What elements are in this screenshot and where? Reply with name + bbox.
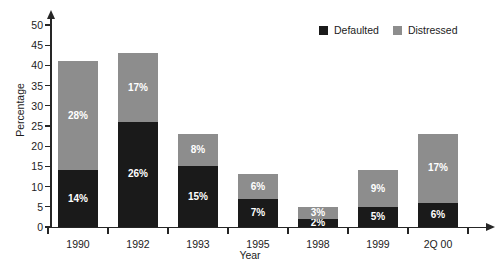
y-axis-line <box>50 18 52 227</box>
x-axis-tick <box>227 228 228 234</box>
bar-segment-distressed[interactable]: 17% <box>418 134 458 203</box>
x-axis-tick <box>407 228 408 234</box>
bar-segment-value-label: 3% <box>311 208 325 218</box>
y-axis-tick-label: 45 <box>3 40 43 50</box>
y-axis-tick <box>45 24 50 25</box>
x-axis-tick <box>287 228 288 234</box>
x-axis-tick <box>107 228 108 234</box>
y-axis-tick <box>45 105 50 106</box>
y-axis-tick-label: 50 <box>3 20 43 30</box>
y-axis-tick-label: 25 <box>3 121 43 131</box>
bar-segment-value-label: 7% <box>251 208 265 218</box>
x-axis-tick <box>167 228 168 234</box>
bar-segment-distressed[interactable]: 9% <box>358 170 398 206</box>
y-axis-tick <box>45 85 50 86</box>
bar-group[interactable]: 14%28% <box>58 61 98 227</box>
y-axis-tick-label: 30 <box>3 101 43 111</box>
y-axis-tick-label: 0 <box>3 222 43 232</box>
bar-segment-value-label: 28% <box>68 111 88 121</box>
bar-segment-value-label: 5% <box>371 212 385 222</box>
legend-item-distressed: Distressed <box>393 24 458 36</box>
bar-group[interactable]: 7%6% <box>238 174 278 227</box>
bar-segment-value-label: 9% <box>371 184 385 194</box>
legend-item-defaulted: Defaulted <box>319 24 379 36</box>
bar-group[interactable]: 5%9% <box>358 170 398 227</box>
legend-label-defaulted: Defaulted <box>334 24 379 36</box>
y-axis-tick-label: 35 <box>3 81 43 91</box>
bar-segment-value-label: 26% <box>128 169 148 179</box>
y-axis-tick-label: 5 <box>3 202 43 212</box>
y-axis-tick-label: 15 <box>3 161 43 171</box>
x-axis-arrow-icon <box>486 223 495 231</box>
chart-legend: Defaulted Distressed <box>319 24 458 36</box>
chart-page: Percentage 05101520253035404550 Year 199… <box>0 0 504 270</box>
y-axis-tick <box>45 186 50 187</box>
y-axis-tick <box>45 146 50 147</box>
y-axis-tick <box>45 125 50 126</box>
x-axis-title: Year <box>210 249 290 261</box>
bar-segment-defaulted[interactable]: 14% <box>58 170 98 227</box>
bar-segment-value-label: 14% <box>68 194 88 204</box>
y-axis-tick-label: 10 <box>3 182 43 192</box>
bar-segment-defaulted[interactable]: 26% <box>118 122 158 227</box>
bar-segment-distressed[interactable]: 6% <box>238 174 278 198</box>
bar-group[interactable]: 2%3% <box>298 207 338 227</box>
bar-segment-value-label: 6% <box>251 182 265 192</box>
legend-swatch-defaulted-icon <box>319 26 328 35</box>
x-axis-tick <box>467 228 468 234</box>
stacked-bar-chart: Percentage 05101520253035404550 Year 199… <box>0 0 504 270</box>
y-axis-tick <box>45 166 50 167</box>
legend-swatch-distressed-icon <box>393 26 402 35</box>
y-axis-tick-label: 20 <box>3 141 43 151</box>
bar-segment-distressed[interactable]: 17% <box>118 53 158 122</box>
bar-group[interactable]: 15%8% <box>178 134 218 227</box>
bar-segment-defaulted[interactable]: 6% <box>418 203 458 227</box>
bar-group[interactable]: 26%17% <box>118 53 158 227</box>
y-axis-tick-label: 40 <box>3 60 43 70</box>
bar-group[interactable]: 6%17% <box>418 134 458 227</box>
bar-segment-distressed[interactable]: 8% <box>178 134 218 166</box>
bar-segment-value-label: 6% <box>431 210 445 220</box>
bar-segment-distressed[interactable]: 3% <box>298 207 338 219</box>
y-axis-tick <box>45 65 50 66</box>
bar-segment-defaulted[interactable]: 15% <box>178 166 218 227</box>
bar-segment-value-label: 17% <box>428 163 448 173</box>
bar-segment-value-label: 17% <box>128 83 148 93</box>
y-axis-tick <box>45 45 50 46</box>
bar-segment-defaulted[interactable]: 5% <box>358 207 398 227</box>
bar-segment-distressed[interactable]: 28% <box>58 61 98 170</box>
y-axis-arrow-icon <box>47 10 55 19</box>
bar-segment-defaulted[interactable]: 7% <box>238 199 278 227</box>
bar-segment-defaulted[interactable]: 2% <box>298 219 338 227</box>
legend-label-distressed: Distressed <box>408 24 458 36</box>
y-axis-tick <box>45 206 50 207</box>
x-axis-tick <box>347 228 348 234</box>
bar-segment-value-label: 8% <box>191 145 205 155</box>
bar-segment-value-label: 15% <box>188 192 208 202</box>
bar-segment-value-label: 2% <box>311 218 325 228</box>
x-axis-tick <box>47 228 48 234</box>
x-axis-tick-label: 2Q 00 <box>403 238 473 250</box>
